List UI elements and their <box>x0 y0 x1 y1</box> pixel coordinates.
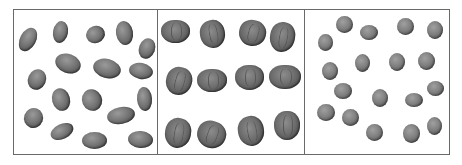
walnut <box>274 111 300 140</box>
pea <box>397 18 414 35</box>
pea <box>405 93 423 107</box>
pea <box>427 81 444 96</box>
pea <box>427 117 442 135</box>
walnut <box>197 69 227 92</box>
pea <box>372 89 388 107</box>
pea <box>334 83 352 99</box>
walnut <box>269 65 301 89</box>
image-frame <box>13 9 450 155</box>
pea <box>322 62 338 80</box>
pea <box>427 21 443 39</box>
pea <box>355 54 370 72</box>
pea <box>418 52 435 70</box>
pea <box>318 34 333 51</box>
walnut <box>161 20 190 43</box>
pea <box>360 25 378 40</box>
pea <box>366 124 383 141</box>
pea <box>336 16 353 33</box>
pea <box>403 124 420 143</box>
pea <box>389 53 405 71</box>
pea <box>317 104 335 121</box>
walnut <box>235 65 264 90</box>
panel-divider <box>304 9 305 155</box>
bean <box>82 132 107 149</box>
panel-divider <box>157 9 158 155</box>
pea <box>342 109 359 126</box>
